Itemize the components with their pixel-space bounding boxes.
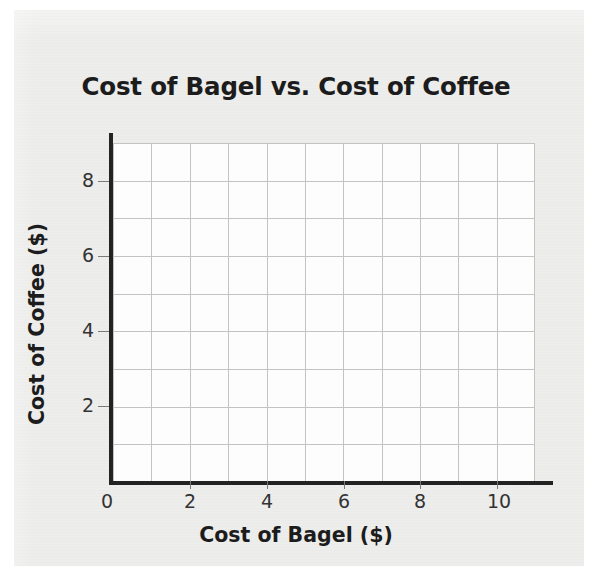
x-tick-label: 2 [170, 490, 210, 512]
gridline-horizontal [113, 407, 535, 408]
x-axis-title: Cost of Bagel ($) [0, 523, 592, 547]
y-axis-tick [98, 256, 109, 257]
gridline-horizontal [113, 256, 535, 257]
x-axis-tick [344, 481, 345, 489]
y-tick-label: 8 [68, 169, 94, 191]
y-axis-tick [98, 406, 109, 407]
gridline-horizontal [113, 181, 535, 182]
x-tick-label: 10 [479, 490, 519, 512]
gridline-vertical [534, 143, 535, 482]
x-tick-label: 0 [87, 490, 127, 512]
gridline-vertical [343, 143, 344, 482]
x-axis-tick [267, 481, 268, 489]
gridline-horizontal [113, 444, 535, 445]
gridline-vertical [228, 143, 229, 482]
x-axis-line [109, 481, 553, 485]
gridline-horizontal [113, 369, 535, 370]
y-axis-tick [98, 181, 109, 182]
gridline-vertical [113, 143, 114, 482]
plot-area [113, 143, 535, 482]
y-tick-label: 4 [68, 319, 94, 341]
x-axis-tick [420, 481, 421, 489]
x-tick-label: 4 [247, 490, 287, 512]
gridline-vertical [420, 143, 421, 482]
x-axis-tick [190, 481, 191, 489]
y-axis-tick [98, 331, 109, 332]
gridline-vertical [267, 143, 268, 482]
y-axis-title: Cost of Coffee ($) [25, 209, 49, 439]
y-tick-label: 6 [68, 244, 94, 266]
gridline-horizontal [113, 294, 535, 295]
y-tick-label: 2 [68, 394, 94, 416]
gridline-vertical [305, 143, 306, 482]
gridline-horizontal [113, 331, 535, 332]
gridline-horizontal [113, 143, 535, 144]
x-tick-label: 8 [400, 490, 440, 512]
gridline-horizontal [113, 218, 535, 219]
gridline-vertical [190, 143, 191, 482]
y-axis-line [109, 133, 113, 485]
chart-title: Cost of Bagel vs. Cost of Coffee [0, 72, 592, 101]
gridline-vertical [382, 143, 383, 482]
x-axis-tick [497, 481, 498, 489]
gridline-vertical [151, 143, 152, 482]
gridline-vertical [497, 143, 498, 482]
x-tick-label: 6 [324, 490, 364, 512]
gridline-vertical [458, 143, 459, 482]
